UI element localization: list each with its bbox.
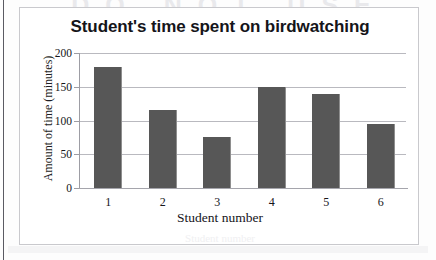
x-axis-title-ghost: Student number — [20, 232, 420, 244]
bar — [94, 67, 122, 189]
y-tick-label: 0 — [66, 182, 72, 194]
y-tick-mark — [74, 188, 79, 189]
x-tick-label: 6 — [367, 195, 395, 210]
scan-smudge — [8, 246, 428, 253]
bar — [149, 110, 177, 188]
bar — [258, 87, 286, 188]
y-tick-label: 200 — [55, 47, 72, 59]
page-edge-line — [3, 0, 4, 260]
x-tick-label: 1 — [94, 195, 122, 210]
chart-title: Student's time spent on birdwatching — [20, 17, 420, 37]
y-tick-label: 100 — [55, 115, 72, 127]
x-axis-line — [77, 188, 408, 189]
y-axis-title: Amount of time (minutes) — [41, 44, 56, 194]
bars-group — [79, 53, 406, 188]
x-axis-title: Student number — [20, 210, 420, 226]
y-tick-label: 50 — [61, 148, 73, 160]
bar — [312, 94, 340, 189]
x-tick-label: 3 — [203, 195, 231, 210]
plot-area: 050100150200 123456 — [79, 53, 406, 188]
x-tick-label: 2 — [149, 195, 177, 210]
scanned-page: DO NOT USE Student's time spent on birdw… — [0, 0, 436, 260]
x-tick-label: 5 — [312, 195, 340, 210]
bar — [203, 137, 231, 188]
bar — [367, 124, 395, 188]
x-tick-label: 4 — [258, 195, 286, 210]
y-tick-label: 150 — [55, 81, 72, 93]
chart-frame: Student's time spent on birdwatching Amo… — [19, 7, 419, 245]
